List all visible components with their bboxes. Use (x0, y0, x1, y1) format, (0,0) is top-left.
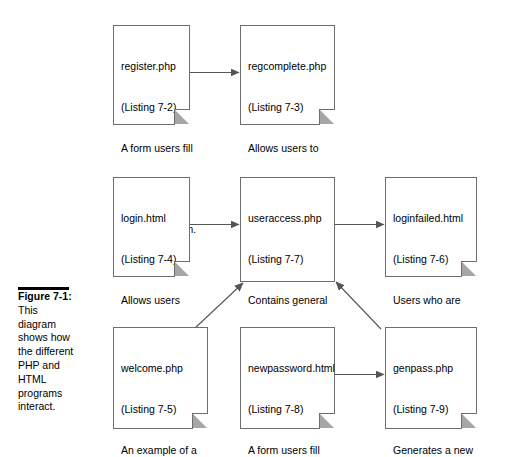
node-line: Allows users to (248, 142, 334, 156)
node-line: (Listing 7-7) (248, 253, 334, 267)
page-fold-triangle-icon (462, 262, 476, 276)
page-fold-triangle-icon (462, 414, 476, 428)
node-welcome-php[interactable]: welcome.php (Listing 7-5) An example of … (113, 327, 208, 429)
caption-line: the different (18, 345, 80, 359)
node-line: A form users fill (121, 142, 189, 156)
page-fold-triangle-icon (193, 414, 207, 428)
caption-line: shows how (18, 331, 80, 345)
node-line: Allows users (121, 294, 189, 308)
node-line: An example of a (121, 444, 207, 457)
caption-line: HTML (18, 373, 80, 387)
node-line: useraccess.php (248, 212, 334, 226)
page-fold-triangle-icon (320, 414, 334, 428)
caption-line: programs (18, 387, 80, 401)
caption-line: interact. (18, 400, 80, 414)
node-line: Generates a new (393, 444, 476, 457)
caption-line: diagram (18, 318, 80, 332)
node-line: loginfailed.html (393, 212, 476, 226)
node-loginfailed-html[interactable]: loginfailed.html (Listing 7-6) Users who… (385, 177, 477, 277)
caption-line: PHP and (18, 359, 80, 373)
node-line: login.html (121, 212, 189, 226)
node-line: Contains general (248, 294, 334, 308)
node-line: genpass.php (393, 362, 476, 376)
node-line: welcome.php (121, 362, 207, 376)
edge-genpass-to-useraccess (336, 282, 381, 329)
node-line: newpassword.html (248, 362, 334, 376)
figure-canvas: Figure 7-1: This diagram shows how the d… (0, 0, 519, 457)
node-register-php[interactable]: register.php (Listing 7-2) A form users … (113, 25, 190, 125)
page-fold-triangle-icon (320, 110, 334, 124)
node-login-html[interactable]: login.html (Listing 7-4) Allows users to… (113, 177, 190, 277)
node-line: regcomplete.php (248, 60, 334, 74)
caption-title: Figure 7-1: (18, 290, 80, 304)
edge-welcome-to-useraccess (194, 283, 243, 329)
node-genpass-php[interactable]: genpass.php (Listing 7-9) Generates a ne… (385, 327, 477, 429)
node-line: A form users fill (248, 444, 334, 457)
page-fold-triangle-icon (175, 110, 189, 124)
page-fold-triangle-icon (175, 262, 189, 276)
node-newpassword-html[interactable]: newpassword.html (Listing 7-8) A form us… (240, 327, 335, 429)
figure-caption: Figure 7-1: This diagram shows how the d… (18, 290, 80, 414)
node-line: Users who are (393, 294, 476, 308)
node-regcomplete-php[interactable]: regcomplete.php (Listing 7-3) Allows use… (240, 25, 335, 125)
node-line: register.php (121, 60, 189, 74)
caption-line: This (18, 304, 80, 318)
node-useraccess-php[interactable]: useraccess.php (Listing 7-7) Contains ge… (240, 177, 335, 282)
